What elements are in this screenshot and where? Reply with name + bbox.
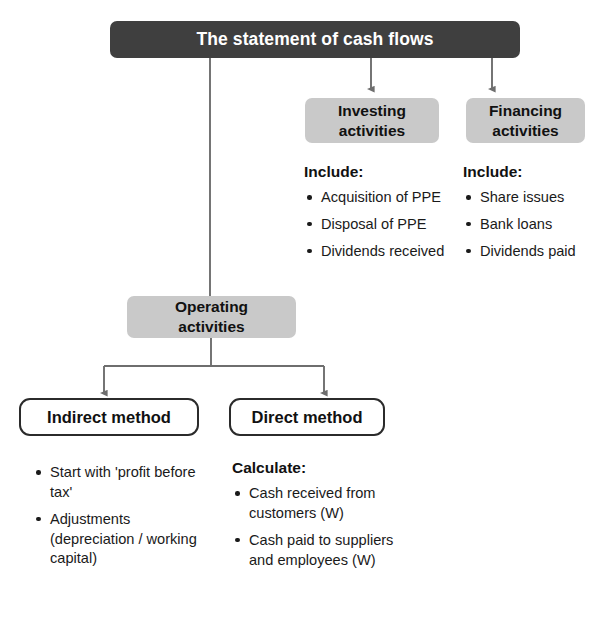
direct-details-block: Calculate: Cash received from customers … [232, 459, 397, 577]
cash-flow-diagram: The statement of cash flows Investing ac… [0, 0, 609, 632]
list-item: Acquisition of PPE [304, 188, 460, 208]
node-indirect-method-label: Indirect method [21, 408, 197, 427]
node-financing-activities-label: Financing activities [466, 101, 585, 141]
list-item: Dividends received [304, 242, 460, 262]
investing-details-block: Include: Acquisition of PPE Disposal of … [304, 163, 460, 269]
node-investing-activities: Investing activities [305, 98, 439, 143]
financing-details-block: Include: Share issues Bank loans Dividen… [463, 163, 603, 269]
node-investing-activities-label: Investing activities [305, 101, 439, 141]
list-item: Start with 'profit before tax' [33, 463, 198, 503]
list-item: Cash paid to suppliers and employees (W) [232, 531, 397, 571]
node-direct-method-label: Direct method [231, 408, 383, 427]
node-indirect-method: Indirect method [19, 398, 199, 436]
node-operating-activities-label: Operating activities [127, 297, 296, 337]
direct-details-list: Cash received from customers (W) Cash pa… [232, 484, 397, 570]
financing-details-heading: Include: [463, 163, 603, 181]
direct-details-heading: Calculate: [232, 459, 397, 477]
financing-details-list: Share issues Bank loans Dividends paid [463, 188, 603, 262]
list-item: Adjustments (depreciation / working capi… [33, 510, 198, 570]
indirect-details-block: Start with 'profit before tax' Adjustmen… [33, 463, 198, 576]
investing-details-heading: Include: [304, 163, 460, 181]
diagram-title-label: The statement of cash flows [110, 29, 520, 50]
investing-details-list: Acquisition of PPE Disposal of PPE Divid… [304, 188, 460, 262]
node-operating-activities: Operating activities [127, 296, 296, 338]
node-financing-activities: Financing activities [466, 98, 585, 143]
list-item: Cash received from customers (W) [232, 484, 397, 524]
list-item: Bank loans [463, 215, 603, 235]
indirect-details-list: Start with 'profit before tax' Adjustmen… [33, 463, 198, 569]
diagram-title-box: The statement of cash flows [110, 21, 520, 58]
node-direct-method: Direct method [229, 398, 385, 436]
list-item: Share issues [463, 188, 603, 208]
list-item: Disposal of PPE [304, 215, 460, 235]
list-item: Dividends paid [463, 242, 603, 262]
